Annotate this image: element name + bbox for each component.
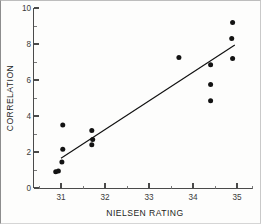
data-point: [89, 128, 94, 133]
data-point: [89, 142, 94, 147]
data-points-layer: [53, 20, 235, 174]
data-point: [208, 98, 213, 103]
x-tick-label-34: 34: [188, 193, 198, 202]
plot-canvas: 10 8 6 4 2 0 31 32 33 34 35 NIELSEN: [0, 0, 261, 224]
y-tick-label-4: 4: [26, 112, 31, 121]
y-tick-label-2: 2: [26, 148, 31, 157]
data-point: [208, 82, 213, 87]
data-point: [90, 137, 95, 142]
data-point: [230, 20, 235, 25]
data-point: [56, 168, 61, 173]
data-point: [208, 62, 213, 67]
x-tick-label-35: 35: [232, 193, 242, 202]
data-point: [60, 123, 65, 128]
scatter-plot-figure: 10 8 6 4 2 0 31 32 33 34 35 NIELSEN: [0, 0, 261, 224]
y-tick-label-6: 6: [26, 76, 31, 85]
x-tick-label-31: 31: [56, 193, 66, 202]
y-tick-label-8: 8: [26, 40, 31, 49]
x-tick-label-33: 33: [144, 193, 154, 202]
y-tick-label-0: 0: [26, 184, 31, 193]
data-point: [60, 147, 65, 152]
x-axis-title: NIELSEN RATING: [106, 208, 183, 218]
data-point: [229, 36, 234, 41]
data-point: [176, 55, 181, 60]
data-point: [230, 56, 235, 61]
y-tick-label-10: 10: [22, 4, 32, 13]
x-tick-label-32: 32: [100, 193, 110, 202]
data-point: [59, 159, 64, 164]
x-axis-major-ticks: [61, 183, 237, 189]
y-axis-title: CORRELATION: [5, 65, 15, 131]
